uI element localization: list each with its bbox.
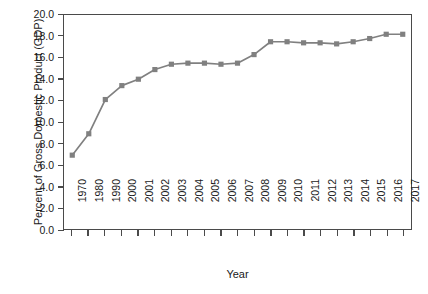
- x-tick-mark: [303, 230, 304, 236]
- data-point: [235, 61, 240, 66]
- y-tick-mark: [58, 208, 64, 209]
- y-tick-mark: [58, 100, 64, 101]
- data-point: [169, 62, 174, 67]
- data-point: [284, 39, 289, 44]
- y-tick-mark: [58, 230, 64, 231]
- y-tick-label: 4.0: [10, 182, 54, 192]
- x-tick-mark: [220, 230, 221, 236]
- y-tick-label: 16.0: [10, 52, 54, 62]
- y-tick-label: 8.0: [10, 139, 54, 149]
- x-tick-mark: [353, 230, 354, 236]
- y-tick-label: 14.0: [10, 74, 54, 84]
- y-tick-mark: [58, 143, 64, 144]
- x-tick-mark: [270, 230, 271, 236]
- x-tick-mark: [71, 230, 72, 236]
- x-tick-mark: [104, 230, 105, 236]
- y-tick-label: 0.0: [10, 225, 54, 235]
- data-point: [103, 97, 108, 102]
- data-point: [384, 32, 389, 37]
- data-point: [136, 77, 141, 82]
- y-tick-label: 10.0: [10, 117, 54, 127]
- y-tick-mark: [58, 35, 64, 36]
- y-tick-mark: [58, 186, 64, 187]
- data-point: [318, 40, 323, 45]
- data-point: [268, 39, 273, 44]
- y-tick-mark: [58, 165, 64, 166]
- data-point: [334, 41, 339, 46]
- data-point: [86, 131, 91, 136]
- x-tick-mark: [87, 230, 88, 236]
- x-tick-mark: [287, 230, 288, 236]
- x-tick-mark: [204, 230, 205, 236]
- x-tick-mark: [254, 230, 255, 236]
- x-tick-mark: [337, 230, 338, 236]
- x-tick-mark: [320, 230, 321, 236]
- y-axis-tick-labels: 20.018.016.014.012.010.08.06.04.02.00.0: [10, 0, 54, 294]
- data-line: [72, 34, 402, 155]
- x-tick-mark: [137, 230, 138, 236]
- y-tick-mark: [58, 57, 64, 58]
- y-tick-label: 6.0: [10, 160, 54, 170]
- y-tick-label: 12.0: [10, 95, 54, 105]
- x-tick-label: 2017: [409, 179, 421, 239]
- x-tick-mark: [121, 230, 122, 236]
- data-point: [218, 62, 223, 67]
- chart-figure: Percent of Gross Domestic Product (GDP) …: [0, 0, 428, 294]
- x-tick-mark: [237, 230, 238, 236]
- x-axis-title: Year: [63, 268, 412, 281]
- y-tick-label: 20.0: [10, 9, 54, 19]
- data-point: [152, 67, 157, 72]
- y-tick-mark: [58, 14, 64, 15]
- data-point: [251, 52, 256, 57]
- x-tick-mark: [370, 230, 371, 236]
- data-point: [301, 40, 306, 45]
- y-tick-mark: [58, 78, 64, 79]
- data-point: [202, 61, 207, 66]
- x-tick-mark: [387, 230, 388, 236]
- y-tick-label: 2.0: [10, 203, 54, 213]
- data-point: [400, 32, 405, 37]
- x-tick-mark: [187, 230, 188, 236]
- x-tick-mark: [154, 230, 155, 236]
- x-tick-mark: [403, 230, 404, 236]
- y-tick-label: 18.0: [10, 31, 54, 41]
- data-point: [185, 61, 190, 66]
- data-point: [70, 153, 75, 158]
- data-point: [119, 83, 124, 88]
- data-point-markers: [70, 32, 406, 158]
- y-tick-mark: [58, 122, 64, 123]
- data-point: [367, 36, 372, 41]
- data-point: [351, 39, 356, 44]
- x-tick-mark: [171, 230, 172, 236]
